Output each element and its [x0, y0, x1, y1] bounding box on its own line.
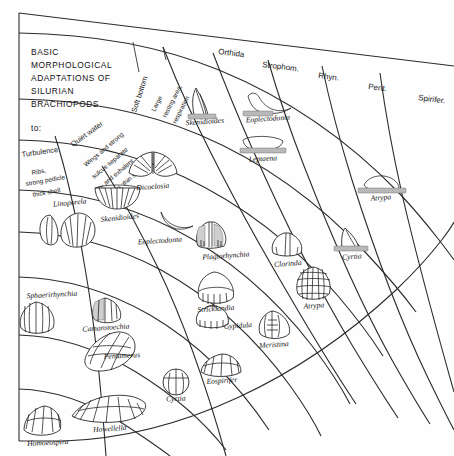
genus-label-eospirifer[interactable]: Eospirifer — [205, 375, 237, 386]
shell-linoporela-b — [61, 213, 95, 247]
to-label: to: — [31, 124, 41, 133]
shell-homoeospira — [24, 406, 61, 435]
shell-clorinda — [272, 233, 302, 256]
shell-howellella — [72, 395, 146, 423]
genus-label-pentamerus[interactable]: Pentamerus — [103, 350, 141, 361]
title-line-3: ADAPTATIONS OF — [31, 73, 111, 83]
shell-atrypa-mid — [297, 267, 331, 300]
genus-label-gypidula[interactable]: Gypidula — [223, 320, 252, 331]
genus-label-dicoelosia[interactable]: Dicoelosia — [135, 181, 170, 192]
shell-cyrtia-right — [334, 228, 368, 251]
brachiopod-fan-diagram: BASIC MORPHOLOGICAL ADAPTATIONS OF SILUR… — [0, 0, 454, 456]
order-header-spiriferida[interactable]: Spirifer. — [418, 93, 446, 105]
genus-label-clorinda[interactable]: Clorinda — [274, 258, 302, 269]
genus-label-meristina[interactable]: Meristina — [258, 339, 289, 350]
band-label-turbulence[interactable]: Turbulence — [21, 145, 59, 159]
tick-soft-bottom-left — [133, 42, 139, 72]
shell-plagiorhynchia — [196, 222, 225, 248]
title-line-5: BRACHIOPODS — [31, 99, 99, 109]
shell-cyrtia-bottom — [163, 369, 189, 395]
shell-sphaerirhynchia — [20, 302, 54, 334]
diagram-root: BASIC MORPHOLOGICAL ADAPTATIONS OF SILUR… — [0, 0, 454, 456]
order-header-strophomenida[interactable]: Strophom. — [262, 60, 300, 73]
shell-dicoelosia — [129, 151, 177, 176]
genus-label-howellella[interactable]: Howellella — [92, 423, 127, 434]
shell-linoporela-a — [40, 215, 58, 245]
shell-skenidioides-mid — [95, 185, 140, 209]
genus-label-skenidioides-top[interactable]: Skenidioides — [185, 116, 224, 128]
radial-pent-spirifer — [380, 73, 454, 392]
shell-skenidioides-top — [188, 88, 216, 119]
order-header-rhynchonellida[interactable]: Rhyn. — [318, 71, 340, 82]
shell-leptaena — [240, 136, 286, 153]
genus-label-atrypa-top[interactable]: Atrypa — [369, 192, 391, 203]
band-detail-turbulence-3: thick shell — [32, 186, 61, 198]
shell-stricklandia — [198, 272, 233, 305]
genus-label-eoplectodonta-top[interactable]: Eoplectodonta — [244, 112, 290, 124]
genus-label-plagiorhynchia[interactable]: Plagiorhynchia — [201, 249, 250, 261]
order-header-pentamerida[interactable]: Pent. — [368, 82, 388, 93]
title-line-2: MORPHOLOGICAL — [31, 60, 112, 70]
genus-label-skenidioides-mid[interactable]: Skenidioides — [100, 211, 139, 224]
shell-meristina — [259, 311, 289, 339]
genus-label-homoeospira[interactable]: Homoeospira — [26, 437, 69, 448]
shell-camarotoechia — [93, 298, 121, 323]
genus-label-stricklandia[interactable]: Stricklandia — [197, 303, 235, 315]
genus-label-atrypa-mid[interactable]: Atrypa — [302, 300, 324, 311]
genus-label-leptaena[interactable]: Leptaena — [248, 153, 278, 164]
order-headers: Orthida Strophom. Rhyn. Pent. Spirifer. — [218, 47, 446, 105]
genus-label-cyrtia-right[interactable]: Cyrtia — [342, 251, 362, 261]
band-detail-turbulence-1: Ribs, — [31, 167, 47, 176]
title-line-1: BASIC — [31, 47, 59, 57]
order-header-orthida[interactable]: Orthida — [218, 47, 246, 59]
genus-label-cyrtia-bottom[interactable]: Cyrtia — [166, 393, 186, 403]
genus-label-linoporela[interactable]: Linoporela — [52, 196, 87, 209]
genus-label-sphaerirhynchia[interactable]: Sphaerirhynchia — [26, 289, 77, 301]
title-line-4: SILURIAN — [31, 86, 74, 96]
genus-label-eoplectodonta-mid[interactable]: Eoplectodonta — [136, 234, 182, 246]
band-label-quiet-water[interactable]: Quiet water — [69, 119, 105, 149]
band-label-soft-bottom[interactable]: Soft bottom — [129, 75, 149, 114]
shell-eoplectodonta-mid — [161, 212, 193, 229]
